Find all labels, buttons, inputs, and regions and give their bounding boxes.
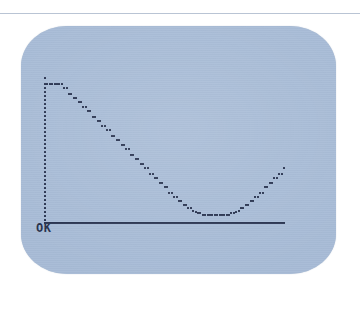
plot-dot [44, 107, 46, 109]
plot-dot [44, 127, 46, 129]
plot-dot [283, 222, 285, 224]
plot-dot [238, 210, 240, 212]
plot-dot [44, 151, 46, 153]
plot-dot [176, 196, 178, 198]
plot-dot [44, 191, 46, 193]
plot-dot [109, 129, 111, 131]
plot-dot [185, 204, 187, 206]
plot-dot [44, 147, 46, 149]
plot-dot [104, 125, 106, 127]
plot-dot [166, 186, 168, 188]
plot-dot [66, 87, 68, 89]
plot-dot [44, 171, 46, 173]
plot-dot [257, 196, 259, 198]
plot-dot [44, 143, 46, 145]
plot-dot [44, 131, 46, 133]
plot-dot [70, 93, 72, 95]
plot-dot [44, 111, 46, 113]
plot-dot [262, 192, 264, 194]
plot-dot [44, 155, 46, 157]
plot-dot [89, 110, 91, 112]
plot-dot [161, 182, 163, 184]
plot-dot [266, 186, 268, 188]
plot-dot [44, 99, 46, 101]
plot-dot [156, 177, 158, 179]
plot-dot [252, 200, 254, 202]
plot-dot [44, 175, 46, 177]
plot-dot [44, 179, 46, 181]
plot-dot [180, 200, 182, 202]
plot-dot [147, 167, 149, 169]
plot-dot [44, 139, 46, 141]
plot-dot [190, 207, 192, 209]
plot-dot [44, 203, 46, 205]
plot-dot [44, 195, 46, 197]
plot-dot [44, 77, 46, 79]
plot-dot [44, 183, 46, 185]
plot-dot [44, 91, 46, 93]
screenshot-stage: OK [0, 0, 360, 312]
plot-dot [171, 192, 173, 194]
plot-dot [242, 207, 244, 209]
plot-dot [113, 135, 115, 137]
plot-dot [99, 120, 101, 122]
plot-dot [44, 211, 46, 213]
plot-canvas [21, 26, 336, 274]
plot-dot [44, 159, 46, 161]
plot-dot [137, 158, 139, 160]
plot-dot [44, 187, 46, 189]
plot-dot [123, 144, 125, 146]
plot-dot [132, 154, 134, 156]
plot-dot [44, 215, 46, 217]
plot-dot [80, 101, 82, 103]
plot-dot [44, 207, 46, 209]
plot-dot [44, 103, 46, 105]
plot-dot [44, 123, 46, 125]
plot-dot [44, 167, 46, 169]
plot-dot [85, 106, 87, 108]
plot-dot [128, 148, 130, 150]
plot-dot [61, 83, 63, 85]
crt-monitor-screen: OK [21, 26, 336, 274]
plot-dot [75, 97, 77, 99]
plot-dot [247, 204, 249, 206]
plot-dot [44, 163, 46, 165]
plot-dot [276, 177, 278, 179]
plot-dot [118, 139, 120, 141]
plot-dot [271, 182, 273, 184]
plot-dot [44, 199, 46, 201]
terminal-prompt-ok: OK [36, 222, 51, 234]
plot-dot [281, 173, 283, 175]
plot-dot [94, 116, 96, 118]
plot-dot [152, 173, 154, 175]
plot-dot [44, 119, 46, 121]
plot-dot [44, 135, 46, 137]
plot-dot [44, 87, 46, 89]
plot-dot [44, 95, 46, 97]
plot-dot [283, 167, 285, 169]
page-top-divider [0, 13, 360, 14]
plot-dot [44, 115, 46, 117]
plot-dot [142, 163, 144, 165]
